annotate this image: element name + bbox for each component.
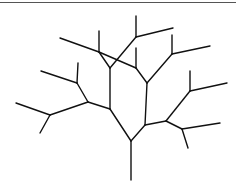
tree-branch	[131, 125, 145, 141]
tree-branch	[110, 109, 131, 141]
tree-branch	[40, 115, 50, 133]
tree-branch	[50, 102, 88, 115]
tree-branch	[182, 129, 188, 148]
tree-branch	[60, 38, 99, 52]
tree-branch	[41, 71, 77, 83]
tree-branch	[145, 121, 166, 125]
tree-branch	[136, 28, 173, 37]
tree-branch	[172, 46, 210, 54]
tree-branch	[166, 91, 190, 121]
tree-branch	[16, 103, 50, 115]
tree-diagram	[0, 0, 236, 190]
tree-branch	[110, 37, 136, 68]
tree-branch	[88, 102, 110, 109]
tree-branch	[147, 54, 172, 83]
tree-branch	[145, 83, 147, 125]
tree-branch	[182, 123, 220, 129]
tree-branch	[190, 83, 227, 91]
tree-branch	[166, 121, 182, 129]
tree-branch	[77, 83, 88, 102]
tree-branch	[77, 63, 78, 83]
tree-branch	[136, 68, 147, 83]
